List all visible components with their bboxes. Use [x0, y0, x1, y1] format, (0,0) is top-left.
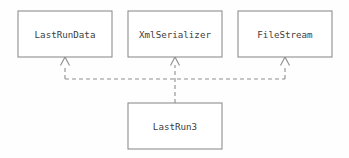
realization-link-filestream — [281, 57, 290, 79]
class-box-label: FileStream — [257, 29, 313, 40]
class-box-label: LastRunData — [35, 29, 96, 40]
class-box-last-run-data[interactable]: LastRunData — [18, 11, 112, 57]
diagram-canvas: LastRunData XmlSerializer FileStream Las… — [0, 0, 349, 158]
uml-class-diagram: LastRunData XmlSerializer FileStream Las… — [0, 0, 349, 158]
realization-link-lastrundata — [61, 57, 70, 79]
hollow-triangle-arrowhead-lastrundata — [61, 57, 70, 66]
class-box-last-run-3[interactable]: LastRun3 — [128, 103, 222, 149]
class-box-label: LastRun3 — [153, 121, 197, 132]
hollow-triangle-arrowhead-xmlserializer — [171, 57, 180, 66]
class-box-label: XmlSerializer — [139, 29, 211, 40]
hollow-triangle-arrowhead-filestream — [281, 57, 290, 66]
class-box-xml-serializer[interactable]: XmlSerializer — [128, 11, 222, 57]
class-box-file-stream[interactable]: FileStream — [238, 11, 332, 57]
realization-link-xmlserializer — [171, 57, 180, 103]
realization-connectors — [61, 57, 290, 103]
